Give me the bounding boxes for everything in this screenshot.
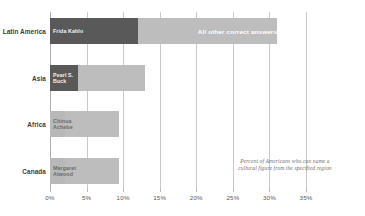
- category-label-latin-america: Latin America: [0, 28, 46, 35]
- bar-chart: Latin America Frida Kahlo All other corr…: [0, 0, 365, 216]
- tick-mark-25pct: [233, 188, 234, 192]
- tick-mark-0pct: [50, 188, 51, 192]
- bar-label-pearl-s-buck: Pearl S. Buck: [53, 72, 73, 84]
- tick-mark-20pct: [196, 188, 197, 192]
- bar-segment-primary-latin-america: Frida Kahlo: [50, 18, 138, 44]
- bar-row-canada: Margaret Atwood: [50, 158, 120, 184]
- category-label-canada: Canada: [0, 168, 46, 175]
- bar-label-chinua-achebe: Chinua Achebe: [53, 118, 73, 130]
- category-label-asia: Asia: [0, 75, 46, 82]
- bar-row-latin-america: Frida Kahlo All other correct answers: [50, 18, 277, 44]
- tick-label-25pct: 25%: [218, 194, 248, 201]
- tick-label-10pct: 10%: [108, 194, 138, 201]
- tick-label-0pct: 0%: [35, 194, 65, 201]
- tick-mark-5pct: [87, 188, 88, 192]
- bar-label-frida-kahlo: Frida Kahlo: [53, 28, 83, 34]
- bar-row-africa: Chinua Achebe: [50, 111, 120, 137]
- tick-mark-35pct: [306, 188, 307, 192]
- tick-label-30pct: 30%: [254, 194, 284, 201]
- bar-segment-other-africa: [65, 111, 120, 137]
- tick-mark-10pct: [123, 188, 124, 192]
- bar-segment-other-asia: [78, 65, 145, 91]
- tick-label-15pct: 15%: [145, 194, 175, 201]
- legend-label-all-other-correct-answers: All other correct answers: [198, 28, 277, 35]
- bar-segment-primary-asia: Pearl S. Buck: [50, 65, 78, 91]
- tick-label-5pct: 5%: [72, 194, 102, 201]
- bar-segment-other-latin-america: All other correct answers: [138, 18, 277, 44]
- tick-label-20pct: 20%: [181, 194, 211, 201]
- chart-annotation: Percent of Americans who can name a cult…: [229, 158, 341, 173]
- tick-label-35pct: 35%: [291, 194, 321, 201]
- bar-row-asia: Pearl S. Buck: [50, 65, 145, 91]
- bar-label-margaret-atwood: Margaret Atwood: [53, 165, 76, 177]
- category-label-africa: Africa: [0, 121, 46, 128]
- tick-mark-30pct: [269, 188, 270, 192]
- tick-mark-15pct: [160, 188, 161, 192]
